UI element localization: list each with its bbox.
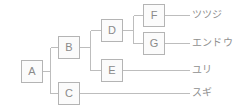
- node-d[interactable]: D: [101, 19, 123, 42]
- node-a[interactable]: A: [21, 60, 43, 83]
- node-g[interactable]: G: [143, 32, 165, 55]
- leaf-label-sugi: スギ: [192, 87, 212, 99]
- leaf-label-yuri: ユリ: [192, 64, 212, 76]
- node-b[interactable]: B: [58, 36, 80, 59]
- node-f[interactable]: F: [143, 4, 165, 27]
- node-e[interactable]: E: [101, 59, 123, 82]
- node-c[interactable]: C: [58, 82, 80, 105]
- cladogram-diagram: A B C D E F G ツツジ エンドウ ユリ スギ: [0, 0, 247, 107]
- leaf-label-tsutsuji: ツツジ: [192, 9, 223, 21]
- leaf-label-endou: エンドウ: [192, 37, 233, 49]
